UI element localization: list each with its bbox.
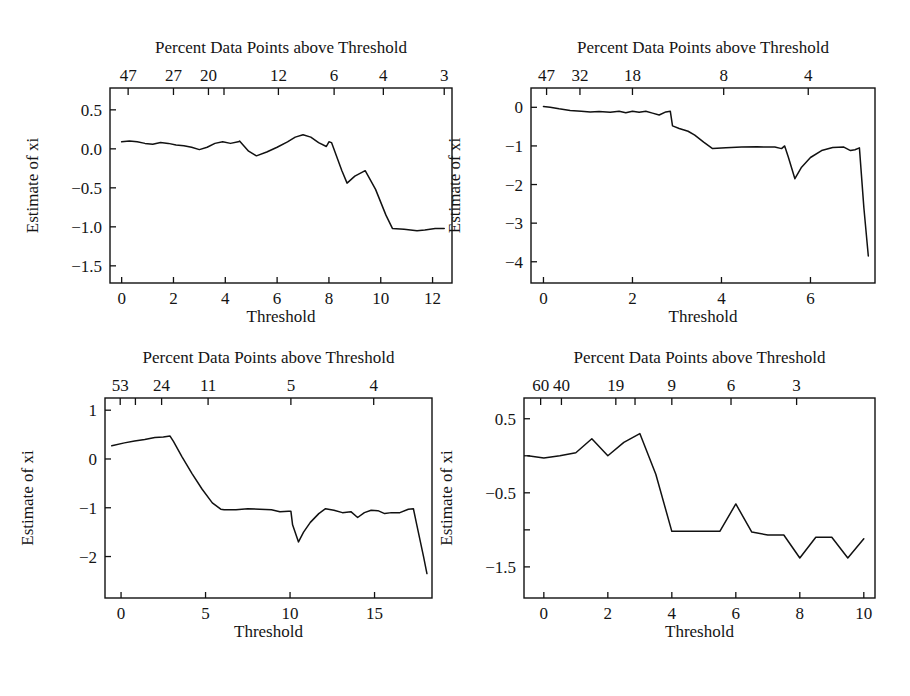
x-tick-label: 0: [540, 604, 549, 623]
y-tick-label: −1.0: [71, 218, 102, 237]
x-tick-label: 6: [806, 289, 815, 308]
y-axis-title: Estimate of xi: [18, 450, 37, 546]
x-tick-label: 6: [732, 604, 741, 623]
x-tick-label: 0: [117, 289, 126, 308]
x-tick-label: 4: [668, 604, 677, 623]
panel-bottom-left: 0510155324115410−1−2Percent Data Points …: [18, 348, 432, 641]
data-series-line: [112, 436, 427, 574]
charts-svg: 024681012472720126430.50.0−0.5−1.0−1.5Pe…: [0, 0, 910, 696]
top-tick-label: 24: [153, 376, 171, 395]
top-tick-label: 5: [287, 376, 296, 395]
top-axis-title: Percent Data Points above Threshold: [143, 348, 395, 367]
top-tick-label: 9: [668, 376, 677, 395]
top-tick-label: 4: [379, 66, 388, 85]
x-axis-title: Threshold: [234, 622, 303, 641]
y-tick-label: −1.5: [71, 257, 102, 276]
top-axis-title: Percent Data Points above Threshold: [574, 348, 826, 367]
y-tick-label: −2: [505, 176, 523, 195]
x-tick-label: 15: [366, 604, 383, 623]
y-axis-title: Estimate of xi: [23, 138, 42, 234]
y-tick-label: −1.5: [485, 558, 516, 577]
top-tick-label: 40: [553, 376, 570, 395]
x-axis-title: Threshold: [247, 307, 316, 326]
y-tick-label: 0: [515, 98, 524, 117]
top-tick-label: 47: [120, 66, 138, 85]
top-tick-label: 3: [440, 66, 449, 85]
y-tick-label: −0.5: [71, 179, 102, 198]
top-tick-label: 53: [112, 376, 129, 395]
top-tick-label: 19: [607, 376, 624, 395]
y-tick-label: −1: [79, 499, 97, 518]
x-axis-title: Threshold: [669, 307, 738, 326]
panel-bottom-right: 02468106040199630.5−0.5−1.5Percent Data …: [437, 348, 875, 641]
top-tick-label: 12: [270, 66, 287, 85]
x-tick-label: 4: [221, 289, 230, 308]
x-tick-label: 10: [372, 289, 389, 308]
x-tick-label: 6: [273, 289, 282, 308]
x-tick-label: 2: [628, 289, 637, 308]
x-tick-label: 4: [717, 289, 726, 308]
y-tick-label: 0.5: [81, 101, 102, 120]
top-axis-title: Percent Data Points above Threshold: [155, 38, 407, 57]
x-tick-label: 10: [855, 604, 872, 623]
top-tick-label: 32: [571, 66, 588, 85]
top-tick-label: 47: [538, 66, 556, 85]
x-tick-label: 0: [117, 604, 126, 623]
data-series-line: [543, 107, 868, 256]
y-tick-label: −2: [79, 548, 97, 567]
y-tick-label: 0.5: [495, 410, 516, 429]
y-tick-label: −1: [505, 137, 523, 156]
top-tick-label: 11: [200, 376, 216, 395]
top-tick-label: 6: [727, 376, 736, 395]
top-tick-label: 27: [165, 66, 183, 85]
panel-top-right: 0246473218840−1−2−3−4Percent Data Points…: [445, 38, 875, 326]
y-tick-label: 0: [89, 450, 98, 469]
plot-frame: [105, 398, 432, 598]
top-tick-label: 8: [719, 66, 728, 85]
top-tick-label: 20: [200, 66, 217, 85]
top-tick-label: 3: [792, 376, 801, 395]
top-tick-label: 6: [330, 66, 339, 85]
y-tick-label: 1: [89, 401, 98, 420]
x-tick-label: 8: [325, 289, 334, 308]
x-tick-label: 0: [539, 289, 548, 308]
plot-frame: [110, 88, 452, 283]
y-tick-label: −4: [505, 253, 524, 272]
y-axis-title: Estimate of xi: [437, 450, 456, 546]
x-tick-label: 12: [424, 289, 441, 308]
data-series-line: [122, 135, 445, 231]
x-tick-label: 2: [604, 604, 613, 623]
y-tick-label: −3: [505, 214, 523, 233]
top-tick-label: 4: [804, 66, 813, 85]
top-tick-label: 60: [532, 376, 549, 395]
top-axis-title: Percent Data Points above Threshold: [577, 38, 829, 57]
y-axis-title: Estimate of xi: [445, 138, 464, 234]
panel-top-left: 024681012472720126430.50.0−0.5−1.0−1.5Pe…: [23, 38, 452, 326]
x-axis-title: Threshold: [665, 622, 734, 641]
figure-four-panel-threshold-plots: 024681012472720126430.50.0−0.5−1.0−1.5Pe…: [0, 0, 910, 696]
x-tick-label: 10: [282, 604, 299, 623]
plot-frame: [524, 398, 875, 598]
data-series-line: [528, 434, 864, 558]
y-tick-label: 0.0: [81, 140, 102, 159]
top-tick-label: 4: [369, 376, 378, 395]
top-tick-label: 18: [624, 66, 641, 85]
x-tick-label: 2: [169, 289, 178, 308]
x-tick-label: 8: [796, 604, 805, 623]
y-tick-label: −0.5: [485, 484, 516, 503]
plot-frame: [531, 88, 875, 283]
x-tick-label: 5: [201, 604, 210, 623]
